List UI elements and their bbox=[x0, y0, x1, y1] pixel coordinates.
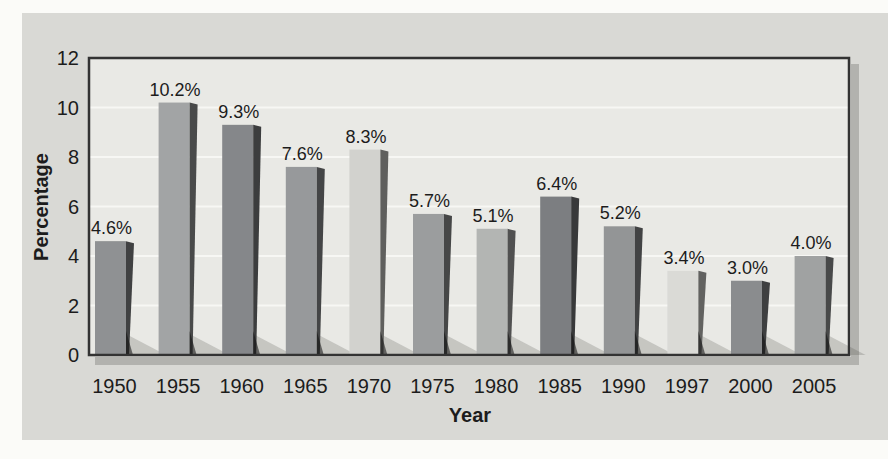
bar-value-label: 5.1% bbox=[473, 206, 514, 226]
x-tick-1955: 1955 bbox=[156, 375, 201, 397]
x-tick-1985: 1985 bbox=[537, 375, 582, 397]
y-tick-4: 4 bbox=[68, 245, 79, 267]
bar-value-label: 6.4% bbox=[536, 174, 577, 194]
bar-face bbox=[604, 226, 635, 355]
bar-face bbox=[159, 103, 190, 355]
x-axis-title: Year bbox=[449, 404, 491, 426]
x-tick-1990: 1990 bbox=[601, 375, 646, 397]
x-tick-1975: 1975 bbox=[410, 375, 455, 397]
bar-face bbox=[95, 241, 126, 355]
x-tick-1950: 1950 bbox=[92, 375, 137, 397]
bar-value-label: 5.7% bbox=[409, 191, 450, 211]
bar-value-label: 8.3% bbox=[345, 127, 386, 147]
x-tick-2005: 2005 bbox=[792, 375, 837, 397]
y-axis-title: Percentage bbox=[30, 153, 52, 261]
scanned-page: 4.6%10.2%9.3%7.6%8.3%5.7%5.1%6.4%5.2%3.4… bbox=[0, 0, 888, 459]
bar-face bbox=[540, 197, 571, 355]
bar-face bbox=[731, 281, 762, 355]
y-tick-0: 0 bbox=[68, 344, 79, 366]
bar-face bbox=[413, 214, 444, 355]
bar-value-label: 3.0% bbox=[727, 258, 768, 278]
bar-face bbox=[222, 125, 253, 355]
bar-face bbox=[349, 150, 380, 355]
bar-face bbox=[286, 167, 317, 355]
x-tick-1970: 1970 bbox=[347, 375, 392, 397]
bar-face bbox=[667, 271, 698, 355]
x-tick-1960: 1960 bbox=[219, 375, 264, 397]
bar-value-label: 3.4% bbox=[663, 248, 704, 268]
y-tick-12: 12 bbox=[57, 47, 79, 69]
bar-value-label: 7.6% bbox=[282, 144, 323, 164]
y-tick-6: 6 bbox=[68, 196, 79, 218]
bar-value-label: 10.2% bbox=[150, 80, 201, 100]
bar-value-label: 9.3% bbox=[218, 102, 259, 122]
bar-chart: 4.6%10.2%9.3%7.6%8.3%5.7%5.1%6.4%5.2%3.4… bbox=[0, 0, 888, 459]
x-tick-1965: 1965 bbox=[283, 375, 328, 397]
bar-face bbox=[795, 256, 826, 355]
x-tick-1997: 1997 bbox=[665, 375, 710, 397]
y-tick-8: 8 bbox=[68, 146, 79, 168]
y-tick-2: 2 bbox=[68, 295, 79, 317]
y-tick-10: 10 bbox=[57, 97, 79, 119]
x-tick-1980: 1980 bbox=[474, 375, 519, 397]
bar-value-label: 4.0% bbox=[791, 233, 832, 253]
bar-value-label: 4.6% bbox=[91, 218, 132, 238]
bar-face bbox=[477, 229, 508, 355]
x-tick-2000: 2000 bbox=[728, 375, 773, 397]
bar-value-label: 5.2% bbox=[600, 203, 641, 223]
